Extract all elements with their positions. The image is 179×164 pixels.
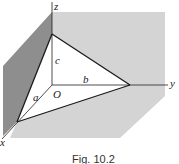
figure-caption: Fig. 10.2 [72,153,115,164]
z-label: z [53,0,59,12]
origin-label: O [53,88,61,100]
edge-b-label: b [83,73,89,85]
y-label: y [169,77,175,89]
coordinate-figure: z y x O a b c Fig. 10.2 [0,0,179,164]
edge-a-label: a [33,91,39,103]
x-label: x [0,136,5,148]
edge-c-label: c [55,54,60,66]
